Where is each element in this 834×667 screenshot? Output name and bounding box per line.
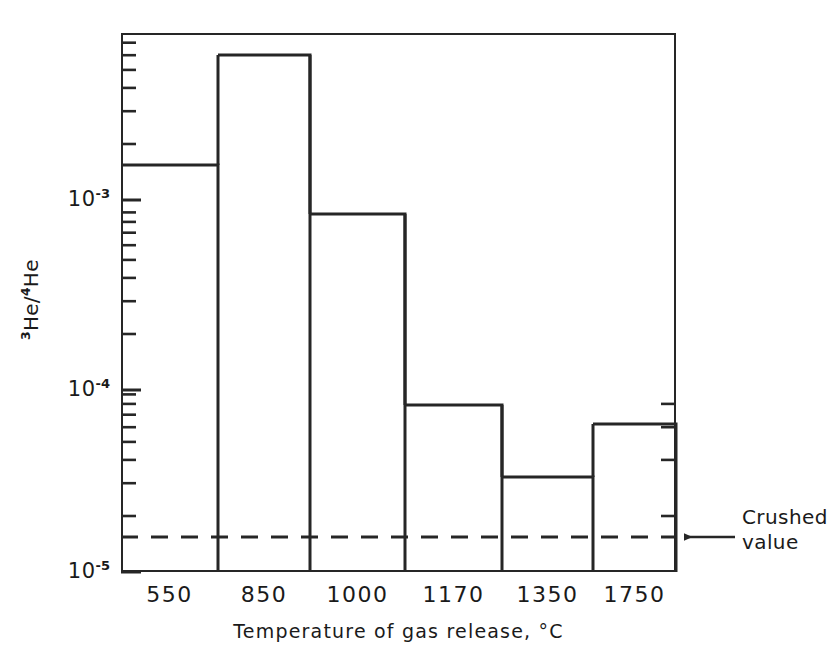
y-axis-title-end: He <box>19 259 43 287</box>
y-tick-mantissa: 10 <box>68 187 96 211</box>
y-tick-exponent: -5 <box>96 558 110 573</box>
x-axis-title: Temperature of gas release, °C <box>121 620 676 642</box>
crushed-value-line-1: Crushed <box>742 505 828 530</box>
crushed-value-line-2: value <box>742 530 828 555</box>
y-axis-title-sup-4: 4 <box>18 287 33 296</box>
x-tick-label-2: 1000 <box>310 582 405 607</box>
x-tick-label-4: 1350 <box>502 582 593 607</box>
y-tick-label-1e-3: 10-3 <box>30 186 110 211</box>
plot-frame <box>121 33 676 572</box>
y-axis-title-sup-3: 3 <box>18 331 33 340</box>
x-tick-label-0: 550 <box>121 582 218 607</box>
y-tick-label-1e-4: 10-4 <box>30 376 110 401</box>
y-tick-mantissa: 10 <box>68 377 96 401</box>
y-tick-exponent: -4 <box>96 376 110 391</box>
chart-figure: 3He/4He 10-3 10-4 10-5 550 850 1000 1170… <box>0 0 834 667</box>
x-tick-label-1: 850 <box>218 582 310 607</box>
y-tick-mantissa: 10 <box>68 559 96 583</box>
crushed-value-annotation: Crushed value <box>742 505 828 555</box>
y-tick-exponent: -3 <box>96 186 110 201</box>
x-tick-label-3: 1170 <box>405 582 502 607</box>
y-tick-label-1e-5: 10-5 <box>30 558 110 583</box>
x-tick-label-5: 1750 <box>593 582 676 607</box>
y-axis-title-mid: He/ <box>19 296 43 331</box>
